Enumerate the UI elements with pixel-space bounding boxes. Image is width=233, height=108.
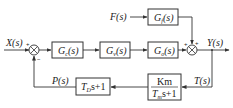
- svg-text:Go(s): Go(s): [154, 45, 175, 57]
- sum1-plus-sign: +: [26, 41, 30, 47]
- summing-junction-1: [29, 45, 39, 55]
- block-sensor: Km Tms+1: [148, 74, 181, 100]
- block-derivative: TDs+1: [76, 78, 110, 95]
- svg-text:Km: Km: [157, 76, 172, 87]
- input-label-x: X(s): [5, 37, 23, 49]
- svg-text:Gv(s): Gv(s): [106, 45, 127, 57]
- svg-text:TDs+1: TDs+1: [81, 81, 105, 93]
- diagram-svg: X(s) + − Gc(s) Gv(s) Go(s) + F(s) Gf(s) …: [0, 0, 233, 108]
- svg-text:Tms+1: Tms+1: [152, 88, 176, 100]
- disturbance-label-f: F(s): [109, 11, 127, 23]
- block-gc: Gc(s): [52, 42, 83, 58]
- wire-gf-sum2: [178, 17, 192, 44]
- block-gf: Gf(s): [148, 9, 178, 25]
- signal-label-p: P(s): [51, 75, 69, 87]
- block-go: Go(s): [148, 42, 178, 58]
- output-label-y: Y(s): [207, 37, 224, 49]
- block-gv: Gv(s): [100, 42, 130, 58]
- signal-label-t: T(s): [194, 75, 211, 87]
- sum2-top-plus-sign: +: [195, 40, 199, 46]
- svg-text:Gc(s): Gc(s): [58, 45, 79, 57]
- sum1-minus-sign: −: [37, 56, 41, 62]
- summing-junction-2: [187, 45, 197, 55]
- svg-text:Gf(s): Gf(s): [154, 12, 174, 24]
- block-diagram: X(s) + − Gc(s) Gv(s) Go(s) + F(s) Gf(s) …: [0, 0, 233, 108]
- sum2-left-plus-sign: +: [184, 41, 188, 47]
